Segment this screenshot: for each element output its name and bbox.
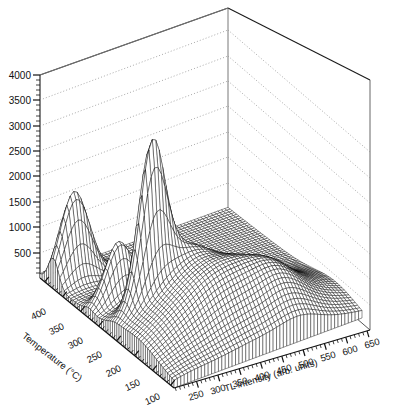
z-tick-label: 500 xyxy=(0,248,31,259)
z-tick-label: 2500 xyxy=(0,146,31,157)
plot-canvas xyxy=(0,0,395,406)
surface-mesh xyxy=(40,140,362,388)
z-tick-label: 3500 xyxy=(0,95,31,106)
z-tick-label: 2000 xyxy=(0,171,31,182)
z-tick-label: 1000 xyxy=(0,222,31,233)
tl-3d-surface-figure: 500 1000 1500 2000 2500 3000 3500 4000 4… xyxy=(0,0,395,406)
z-tick-label: 4000 xyxy=(0,70,31,81)
z-axis-ticks xyxy=(33,75,40,273)
z-tick-label: 1500 xyxy=(0,197,31,208)
z-tick-label: 3000 xyxy=(0,121,31,132)
